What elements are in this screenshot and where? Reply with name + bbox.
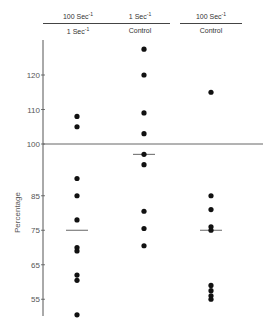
plot-area: 55657585100110120 xyxy=(0,0,276,330)
data-point xyxy=(74,248,79,253)
data-point xyxy=(141,162,146,167)
y-tick-label: 85 xyxy=(31,192,40,201)
data-point xyxy=(208,207,213,212)
data-point xyxy=(74,273,79,278)
scatter-chart: 100 Sec-1 1 Sec-1 1 Sec-1 Control 100 Se… xyxy=(0,0,276,330)
data-point xyxy=(208,297,213,302)
data-point xyxy=(74,278,79,283)
y-tick-label: 110 xyxy=(27,106,40,115)
data-point xyxy=(74,114,79,119)
data-point xyxy=(74,176,79,181)
data-point xyxy=(141,226,146,231)
data-point xyxy=(208,283,213,288)
data-point xyxy=(141,243,146,248)
data-point xyxy=(141,209,146,214)
data-point xyxy=(141,110,146,115)
data-point xyxy=(141,47,146,52)
data-point xyxy=(74,217,79,222)
data-point xyxy=(208,90,213,95)
data-point xyxy=(74,124,79,129)
data-point xyxy=(141,152,146,157)
data-point xyxy=(74,193,79,198)
data-point xyxy=(141,72,146,77)
y-tick-label: 75 xyxy=(31,226,40,235)
data-point xyxy=(208,288,213,293)
y-tick-label: 120 xyxy=(27,71,41,80)
data-point xyxy=(74,312,79,317)
y-tick-label: 65 xyxy=(31,261,40,270)
y-tick-label: 55 xyxy=(31,295,40,304)
data-point xyxy=(208,193,213,198)
data-point xyxy=(141,131,146,136)
y-tick-label: 100 xyxy=(27,140,41,149)
data-point xyxy=(208,228,213,233)
